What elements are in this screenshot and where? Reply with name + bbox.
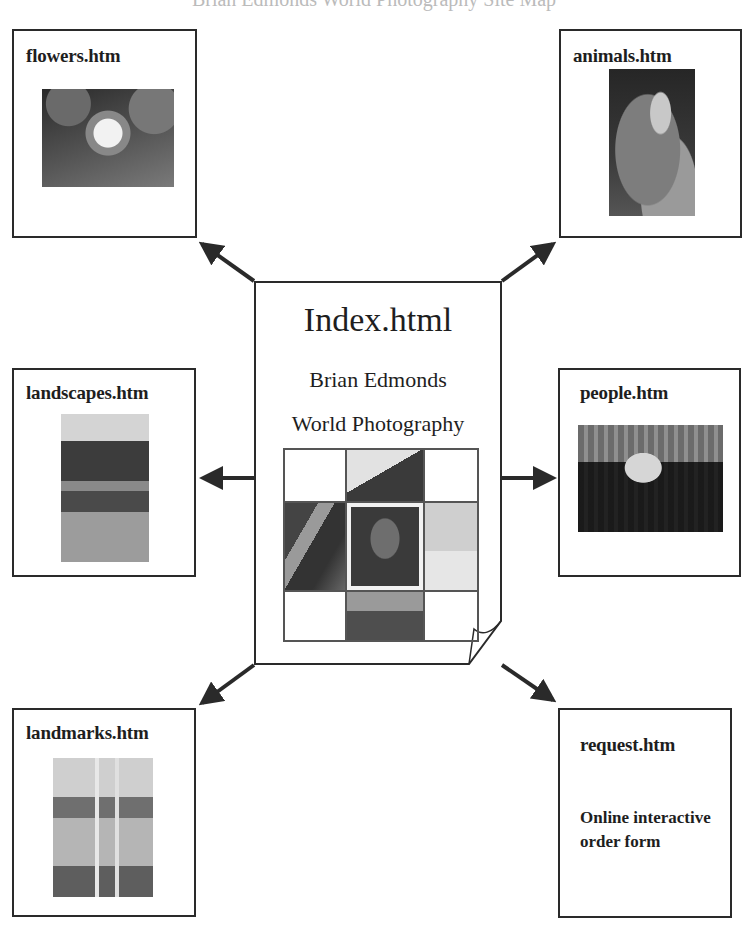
arrow-to-request bbox=[502, 665, 553, 700]
page-title-people: people.htm bbox=[580, 382, 668, 404]
index-title: Index.html bbox=[254, 301, 502, 339]
arrow-to-flowers bbox=[202, 244, 254, 281]
page-box-landmarks: landmarks.htm bbox=[12, 708, 196, 917]
grid-cell-empty bbox=[424, 591, 478, 641]
thumbnail-grid bbox=[283, 448, 479, 642]
parrot-image bbox=[609, 69, 695, 216]
ruins-image bbox=[53, 758, 153, 897]
grid-cell-empty bbox=[424, 449, 478, 502]
request-description: Online interactive order form bbox=[580, 806, 730, 854]
page-box-flowers: flowers.htm bbox=[12, 29, 197, 238]
page-title-landmarks: landmarks.htm bbox=[26, 722, 149, 744]
index-author: Brian Edmonds bbox=[254, 367, 502, 393]
page-title-request: request.htm bbox=[580, 734, 675, 756]
grid-thumb-portrait bbox=[346, 502, 424, 591]
page-box-animals: animals.htm bbox=[559, 29, 742, 238]
page-box-request: request.htm Online interactive order for… bbox=[558, 708, 732, 918]
arrow-to-landmarks bbox=[202, 665, 254, 703]
grid-thumb-animal bbox=[346, 449, 424, 502]
page-title-landscapes: landscapes.htm bbox=[26, 382, 148, 404]
index-subtitle: World Photography bbox=[254, 411, 502, 437]
page-title-flowers: flowers.htm bbox=[26, 45, 120, 67]
crowd-surfer-image bbox=[578, 425, 723, 532]
page-title-animals: animals.htm bbox=[573, 45, 672, 67]
portrait-image bbox=[351, 507, 419, 586]
grid-cell-empty bbox=[284, 591, 346, 641]
page-box-people: people.htm bbox=[558, 368, 741, 577]
index-page: Index.html Brian Edmonds World Photograp… bbox=[254, 281, 502, 665]
grid-thumb-beach bbox=[424, 502, 478, 591]
arrow-to-animals bbox=[502, 244, 553, 281]
grid-thumb-landscape bbox=[284, 502, 346, 591]
river-landscape-image bbox=[61, 414, 149, 562]
page-box-landscapes: landscapes.htm bbox=[12, 368, 196, 577]
grid-thumb-city bbox=[346, 591, 424, 641]
flower-image bbox=[42, 89, 174, 187]
grid-cell-empty bbox=[284, 449, 346, 502]
